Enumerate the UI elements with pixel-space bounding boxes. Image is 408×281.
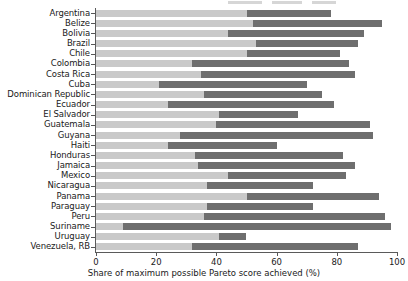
x-tick-mark: [337, 252, 338, 256]
bar-ecuador: [96, 101, 334, 108]
bar-segment-light: [96, 152, 195, 159]
bar-nicaragua: [96, 182, 313, 189]
category-tick: [91, 227, 95, 228]
bar-segment-light: [96, 182, 207, 189]
category-label: Costa Rica: [0, 70, 90, 79]
category-axis-labels: ArgentinaBelizeBoliviaBrazilChileColombi…: [0, 8, 90, 252]
x-tick-label: 60: [271, 257, 282, 267]
bar-suriname: [96, 223, 391, 230]
category-tick: [91, 166, 95, 167]
legend-swatch-3: [312, 1, 336, 4]
category-label: Guatemala: [0, 120, 90, 129]
bar-segment-light: [96, 40, 256, 47]
bar-panama: [96, 193, 379, 200]
category-label: Colombia: [0, 59, 90, 68]
x-tick-label: 80: [331, 257, 342, 267]
x-tick-label: 0: [93, 257, 98, 267]
x-tick-mark: [96, 252, 97, 256]
bar-segment-light: [96, 30, 228, 37]
category-tick: [91, 23, 95, 24]
bar-el-salvador: [96, 111, 298, 118]
category-label: Panama: [0, 192, 90, 201]
category-label: Belize: [0, 19, 90, 28]
bar-segment-light: [96, 121, 216, 128]
bar-segment-light: [96, 101, 168, 108]
category-label: Dominican Republic: [0, 90, 90, 99]
bar-segment-light: [96, 60, 192, 67]
bar-cuba: [96, 81, 307, 88]
bar-segment-light: [96, 111, 219, 118]
category-label: Mexico: [0, 171, 90, 180]
category-tick: [91, 94, 95, 95]
category-label: Paraguay: [0, 202, 90, 211]
bar-dominican-republic: [96, 91, 322, 98]
bar-segment-dark: [247, 193, 379, 200]
category-label: Haiti: [0, 141, 90, 150]
bar-venezuela-rb: [96, 243, 358, 250]
category-tick: [91, 247, 95, 248]
x-tick-mark: [397, 252, 398, 256]
bar-segment-light: [96, 162, 198, 169]
category-tick: [91, 216, 95, 217]
bar-haiti: [96, 142, 277, 149]
category-tick: [91, 186, 95, 187]
bar-segment-light: [96, 233, 219, 240]
bar-segment-light: [96, 213, 204, 220]
category-label: Cuba: [0, 80, 90, 89]
bar-segment-dark: [216, 121, 370, 128]
bar-segment-light: [96, 10, 247, 17]
bar-segment-light: [96, 20, 253, 27]
bar-uruguay: [96, 233, 247, 240]
category-label: Guyana: [0, 131, 90, 140]
category-tick: [91, 206, 95, 207]
category-tick: [91, 64, 95, 65]
bar-segment-dark: [180, 132, 373, 139]
pareto-score-bar-chart: ArgentinaBelizeBoliviaBrazilChileColombi…: [0, 0, 408, 281]
category-tick: [91, 115, 95, 116]
category-tick: [91, 44, 95, 45]
bar-chile: [96, 50, 340, 57]
category-tick: [91, 176, 95, 177]
category-tick: [91, 105, 95, 106]
bar-segment-light: [96, 193, 247, 200]
category-tick: [91, 196, 95, 197]
bar-guatemala: [96, 121, 370, 128]
bar-segment-dark: [256, 40, 358, 47]
bar-costa-rica: [96, 71, 355, 78]
x-axis-line: [96, 252, 398, 253]
x-tick-mark: [277, 252, 278, 256]
category-label: Venezuela, RB: [0, 242, 90, 251]
category-label: Peru: [0, 212, 90, 221]
bar-segment-dark: [123, 223, 391, 230]
bar-segment-dark: [247, 10, 331, 17]
x-axis-title: Share of maximum possible Pareto score a…: [0, 268, 408, 278]
category-label: Uruguay: [0, 232, 90, 241]
category-label: Ecuador: [0, 100, 90, 109]
category-tick: [91, 84, 95, 85]
bar-segment-light: [96, 142, 168, 149]
bar-segment-light: [96, 223, 123, 230]
category-tick: [91, 135, 95, 136]
bar-segment-dark: [228, 30, 363, 37]
bar-segment-dark: [195, 152, 342, 159]
x-tick-label: 100: [389, 257, 405, 267]
bar-segment-dark: [204, 91, 321, 98]
legend-swatch-1: [228, 1, 262, 4]
category-tick: [91, 13, 95, 14]
bar-segment-dark: [168, 101, 334, 108]
category-tick: [91, 237, 95, 238]
bar-segment-light: [96, 243, 192, 250]
bar-mexico: [96, 172, 346, 179]
bar-segment-light: [96, 50, 247, 57]
bar-segment-light: [96, 132, 180, 139]
category-tick: [91, 155, 95, 156]
bar-bolivia: [96, 30, 364, 37]
bar-segment-dark: [168, 142, 276, 149]
legend-swatch-2: [272, 1, 302, 4]
bar-paraguay: [96, 203, 313, 210]
bar-segment-dark: [192, 243, 358, 250]
category-label: Bolivia: [0, 29, 90, 38]
bar-segment-dark: [159, 81, 306, 88]
bar-segment-dark: [219, 111, 297, 118]
bar-jamaica: [96, 162, 355, 169]
